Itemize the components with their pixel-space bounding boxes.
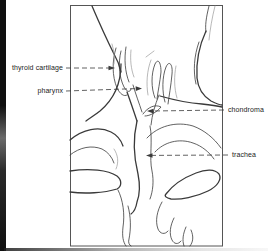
trachea-arrow-icon [146,153,153,158]
labels: thyroid cartilage pharynx chondroma trac… [12,64,264,158]
pharynx-arrow-icon [136,86,142,91]
thyroid-cartilage-arrow-icon [109,66,116,71]
label-pharynx: pharynx [37,87,63,95]
label-chondroma: chondroma [228,106,264,113]
label-trachea: trachea [232,151,256,158]
illustration-frame [71,6,223,247]
anatomy-line-art [70,6,222,246]
figure-scan: thyroid cartilage pharynx chondroma trac… [0,0,268,251]
anatomy-illustration: thyroid cartilage pharynx chondroma trac… [0,0,268,251]
label-thyroid-cartilage: thyroid cartilage [12,64,63,72]
chondroma-leader [153,110,224,111]
chondroma-arrow-icon [147,109,154,114]
